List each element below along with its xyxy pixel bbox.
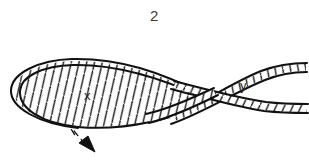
- region-label-x: x: [84, 89, 91, 102]
- figure-canvas: 2 x y: [0, 0, 309, 164]
- region-label-y: y: [240, 79, 247, 92]
- figure-number-caption: 2: [0, 8, 309, 23]
- rope-loop-drawing: [0, 0, 309, 164]
